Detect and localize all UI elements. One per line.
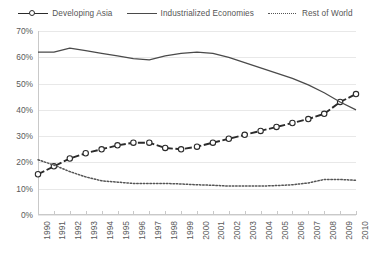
data-point-marker [147,140,152,145]
legend-item-developing-asia: Developing Asia [18,9,112,18]
x-axis-tick-label: 2006 [296,221,306,240]
series-line [38,94,356,174]
x-axis-tick-label: 1995 [121,221,131,240]
x-axis-tick-label: 1990 [42,221,52,240]
x-axis-tick-label: 2001 [216,221,226,240]
data-point-marker [115,143,120,148]
y-axis-tick-label: 10% [16,184,33,194]
x-axis-tick-label: 2003 [248,221,258,240]
x-axis-tick-label: 1991 [57,221,67,240]
chart-legend: Developing Asia Industrialized Economies… [0,5,371,21]
data-point-marker [290,120,295,125]
line-marker-icon [18,9,48,17]
x-axis-tick-label: 2005 [280,221,290,240]
data-point-marker [131,140,136,145]
y-axis-tick-label: 0% [21,210,33,220]
x-axis-tick-label: 2007 [312,221,322,240]
data-point-marker [258,128,263,133]
data-point-marker [194,144,199,149]
data-point-marker [322,111,327,116]
y-axis-tick-label: 50% [16,79,33,89]
line-chart: Developing Asia Industrialized Economies… [0,0,371,268]
x-axis-tick-label: 1996 [137,221,147,240]
x-axis-tick-label: 1998 [169,221,179,240]
line-solid-icon [127,9,157,17]
data-point-marker [178,147,183,152]
y-axis-tick-label: 70% [16,26,33,36]
x-axis-tick-label: 2004 [264,221,274,240]
data-point-marker [306,116,311,121]
x-axis-tick-label: 2008 [328,221,338,240]
x-axis-tick-label: 2010 [360,221,370,240]
y-axis-tick-label: 30% [16,131,33,141]
x-axis-tick-label: 1992 [73,221,83,240]
x-axis-tick-label: 2002 [232,221,242,240]
x-axis-tick-label: 2009 [344,221,354,240]
x-axis-tick-label: 1993 [89,221,99,240]
x-axis-tick-label: 1999 [185,221,195,240]
legend-item-rest-of-world: Rest of World [268,9,353,18]
y-axis-tick-label: 20% [16,157,33,167]
series-line [38,160,356,186]
x-axis-tick-label: 1997 [153,221,163,240]
data-point-marker [163,145,168,150]
series-lines [38,31,356,215]
plot-area: 0%10%20%30%40%50%60%70% 1990199119921993… [38,31,356,215]
data-point-marker [226,136,231,141]
x-axis-tick [356,211,357,215]
line-dotted-icon [268,9,298,17]
x-axis-tick-label: 2000 [201,221,211,240]
data-point-marker [210,140,215,145]
gridline [38,215,356,216]
legend-label: Industrialized Economies [161,9,254,18]
y-axis-tick-label: 60% [16,52,33,62]
data-point-marker [35,172,40,177]
legend-label: Rest of World [302,9,353,18]
data-point-marker [242,132,247,137]
data-point-marker [67,156,72,161]
legend-item-industrialized-economies: Industrialized Economies [127,9,254,18]
series-line [38,48,356,110]
data-point-marker [83,151,88,156]
x-axis-tick-label: 1994 [105,221,115,240]
legend-label: Developing Asia [52,9,112,18]
data-point-marker [274,124,279,129]
data-point-marker [99,147,104,152]
data-point-marker [353,91,358,96]
y-axis-tick-label: 40% [16,105,33,115]
